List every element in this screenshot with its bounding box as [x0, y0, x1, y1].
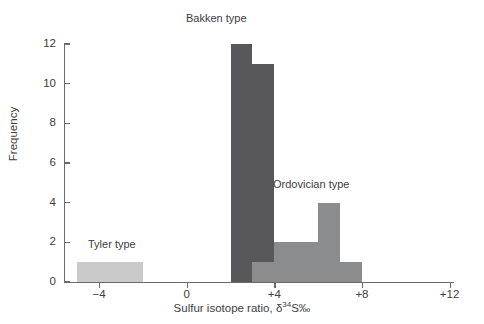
histogram-bar [274, 242, 296, 282]
x-axis-title: Sulfur isotope ratio, δ34S‰ [0, 300, 484, 314]
y-tick-label: 12 [28, 37, 56, 49]
annotation-ordovician-type: Ordovician type [273, 178, 349, 190]
histogram-bar [252, 262, 274, 282]
y-tick-label: 0 [28, 275, 56, 287]
histogram-bar [340, 262, 362, 282]
histogram-bar [121, 262, 143, 282]
histogram-bar [77, 262, 99, 282]
annotation-tyler-type: Tyler type [88, 238, 136, 250]
x-tick-label: +12 [430, 288, 470, 300]
y-tick-label: 2 [28, 235, 56, 247]
x-tick-label: +8 [342, 288, 382, 300]
y-axis-title: Frequency [7, 49, 19, 219]
histogram-bar [252, 64, 274, 282]
histogram-bar [231, 44, 253, 282]
y-tick-label: 6 [28, 156, 56, 168]
x-axis-title-suffix: S‰ [291, 302, 310, 314]
x-axis-line [64, 282, 454, 283]
x-tick-label: +4 [254, 288, 294, 300]
x-axis-title-superscript: 34 [282, 300, 291, 309]
histogram-bar [318, 203, 340, 282]
y-tick-label: 10 [28, 77, 56, 89]
histogram-chart: 024681012−40+4+8+12 Bakken type Ordovici… [0, 0, 484, 324]
y-tick-label: 4 [28, 196, 56, 208]
histogram-bar [99, 262, 121, 282]
y-tick-label: 8 [28, 116, 56, 128]
x-tick-label: −4 [79, 288, 119, 300]
x-tick-label: 0 [167, 288, 207, 300]
annotation-bakken-type: Bakken type [186, 12, 247, 24]
x-axis-title-prefix: Sulfur isotope ratio, δ [174, 302, 283, 314]
histogram-bar [296, 242, 318, 282]
